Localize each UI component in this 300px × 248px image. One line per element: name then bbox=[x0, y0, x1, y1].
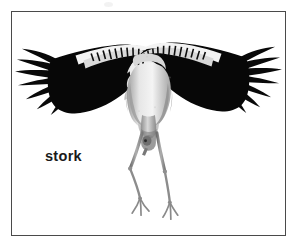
figure-root: stork bbox=[0, 0, 300, 248]
stork-eye bbox=[144, 139, 147, 142]
scan-artifact bbox=[104, 2, 113, 7]
image-frame: stork bbox=[11, 11, 286, 236]
stork-photograph bbox=[12, 12, 285, 235]
image-caption-label: stork bbox=[45, 149, 82, 164]
